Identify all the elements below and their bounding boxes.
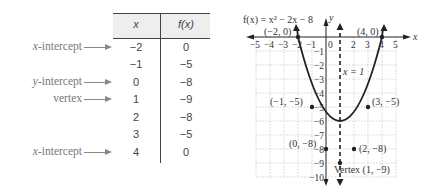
svg-text:−3: −3 <box>314 75 324 85</box>
arrow-down-icon <box>337 179 344 186</box>
svg-text:−10: −10 <box>309 173 324 183</box>
y-tick-labels: −1 −2 −3 −4 −5 −6 −7 −8 −9 −10 <box>309 47 324 183</box>
x-axis-arrow-icon <box>403 35 411 40</box>
x-axis-label: x <box>412 31 418 42</box>
arrow-up-icon <box>337 23 344 30</box>
point-label: (2, −8) <box>359 143 386 155</box>
point-label: (4, 0) <box>357 26 379 38</box>
svg-text:2: 2 <box>351 40 356 50</box>
svg-text:0: 0 <box>328 40 333 50</box>
svg-text:−3: −3 <box>278 40 288 50</box>
svg-text:−4: −4 <box>264 40 274 50</box>
axis-label: x = 1 <box>342 66 364 77</box>
equation-label: f(x) = x² − 2x − 8 <box>243 14 313 26</box>
svg-text:−2: −2 <box>292 40 302 50</box>
svg-text:−1: −1 <box>314 47 324 57</box>
svg-text:−5: −5 <box>314 103 324 113</box>
x-axis-arrow-icon <box>246 35 254 40</box>
svg-text:−9: −9 <box>314 159 324 169</box>
svg-text:4: 4 <box>379 40 384 50</box>
y-axis-arrow-icon <box>324 18 329 26</box>
svg-text:−7: −7 <box>314 131 324 141</box>
svg-text:−2: −2 <box>314 61 324 71</box>
svg-text:3: 3 <box>365 40 370 50</box>
svg-text:5: 5 <box>393 40 398 50</box>
svg-text:−6: −6 <box>314 117 324 127</box>
vertex-label: Vertex (1, −9) <box>334 164 390 176</box>
svg-text:−8: −8 <box>314 145 324 155</box>
arrow-icon <box>381 24 388 31</box>
x-tick-labels: −5 −4 −3 −2 −1 0 2 3 4 5 <box>250 40 398 50</box>
y-axis-arrow-icon <box>324 179 329 186</box>
point-label: (0, −8) <box>289 138 316 150</box>
point-label: (3, −5) <box>372 96 399 108</box>
arrow-icon <box>293 24 300 31</box>
svg-text:−4: −4 <box>314 89 324 99</box>
y-axis-label: y <box>328 12 334 23</box>
point-label: (−1, −5) <box>270 96 303 108</box>
point-label: (−2, 0) <box>264 26 291 38</box>
svg-text:−5: −5 <box>250 40 260 50</box>
parabola-graph: f(x) = x² − 2x − 8 y x (−2, 0) (4, 0) x … <box>0 0 423 186</box>
